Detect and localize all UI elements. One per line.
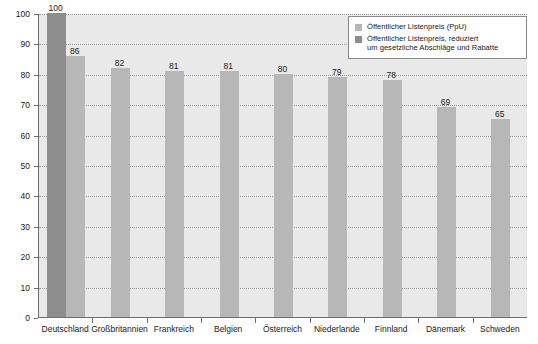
x-axis-tick-label: Großbritannien <box>91 324 148 334</box>
x-axis-tick-mark <box>310 318 311 323</box>
x-axis-tick-label: Niederlande <box>314 324 360 334</box>
bar-value-label: 79 <box>332 67 341 77</box>
y-axis-tick-mark <box>34 136 38 137</box>
x-axis-tick-label: Schweden <box>480 324 520 334</box>
bar <box>220 71 239 317</box>
bar <box>437 107 456 317</box>
y-axis-tick-mark <box>34 288 38 289</box>
legend-item-label: Öffentlicher Listenpreis (PpU) <box>367 22 466 32</box>
legend-item-label: Öffentlicher Listenpreis, reduziertum ge… <box>367 34 498 53</box>
bar <box>111 68 130 317</box>
bar-value-label: 100 <box>49 3 63 13</box>
y-axis-tick-mark <box>34 105 38 106</box>
bar-value-label: 81 <box>223 61 232 71</box>
x-axis-tick-label: Finnland <box>375 324 408 334</box>
x-axis-tick-label: Österreich <box>263 324 302 334</box>
bar <box>491 119 510 317</box>
y-axis-tick-label: 30 <box>4 222 30 232</box>
y-axis-tick-mark <box>34 257 38 258</box>
x-axis-tick-mark <box>147 318 148 323</box>
x-axis-tick-mark <box>473 318 474 323</box>
x-axis-tick-mark <box>364 318 365 323</box>
y-axis-tick-label: 60 <box>4 131 30 141</box>
bar-value-label: 81 <box>169 61 178 71</box>
legend: Öffentlicher Listenpreis (PpU)Öffentlich… <box>348 16 527 59</box>
y-axis-tick-label: 70 <box>4 100 30 110</box>
y-axis-tick-mark <box>34 318 38 319</box>
y-axis-tick-mark <box>34 44 38 45</box>
x-axis-tick-label: Dänemark <box>426 324 465 334</box>
y-axis-tick-label: 80 <box>4 70 30 80</box>
legend-item: Öffentlicher Listenpreis (PpU) <box>355 22 520 32</box>
bar-value-label: 80 <box>278 64 287 74</box>
y-axis-tick-label: 0 <box>4 313 30 323</box>
bar <box>66 56 85 317</box>
bar <box>165 71 184 317</box>
y-axis-tick-label: 20 <box>4 252 30 262</box>
gridline <box>39 14 527 15</box>
y-axis-tick-label: 90 <box>4 39 30 49</box>
y-axis-tick-mark <box>34 196 38 197</box>
y-axis-tick-mark <box>34 227 38 228</box>
bar <box>383 80 402 317</box>
y-axis-tick-label: 40 <box>4 191 30 201</box>
y-axis-tick-label: 100 <box>4 9 30 19</box>
x-axis-tick-label: Deutschland <box>42 324 89 334</box>
bar <box>274 74 293 317</box>
plot-area <box>38 14 527 318</box>
bar <box>328 77 347 317</box>
y-axis-tick-label: 50 <box>4 161 30 171</box>
x-axis-tick-mark <box>92 318 93 323</box>
y-axis-tick-mark <box>34 14 38 15</box>
x-axis-tick-mark <box>201 318 202 323</box>
legend-swatch-icon <box>355 24 362 31</box>
bar-value-label: 78 <box>386 70 395 80</box>
y-axis-tick-mark <box>34 166 38 167</box>
bar <box>47 13 66 317</box>
y-axis-tick-mark <box>34 75 38 76</box>
bar-value-label: 65 <box>495 109 504 119</box>
x-axis-tick-label: Belgien <box>214 324 242 334</box>
y-axis-tick-label: 10 <box>4 283 30 293</box>
x-axis-tick-mark <box>418 318 419 323</box>
bar-chart: 0102030405060708090100 DeutschlandGroßbr… <box>0 0 538 344</box>
x-axis-tick-mark <box>255 318 256 323</box>
legend-item: Öffentlicher Listenpreis, reduziertum ge… <box>355 34 520 53</box>
bar-value-label: 69 <box>441 97 450 107</box>
bar-value-label: 82 <box>115 58 124 68</box>
x-axis-tick-label: Frankreich <box>154 324 194 334</box>
legend-swatch-icon <box>355 36 362 43</box>
bar-value-label: 86 <box>70 46 79 56</box>
